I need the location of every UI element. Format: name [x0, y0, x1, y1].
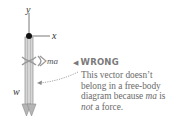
annotation-caption: This vector doesn’t belong in a free-bod…	[81, 70, 173, 112]
ma-label: ma	[47, 56, 58, 66]
wrong-heading: ◀WRONG	[73, 57, 119, 67]
y-axis-label: y	[25, 4, 31, 15]
x-axis-label: x	[51, 30, 57, 41]
weight-vector	[22, 37, 36, 116]
particle-dot	[26, 33, 32, 39]
left-triangle-icon: ◀	[73, 59, 79, 67]
weight-label: w	[13, 86, 20, 97]
annotation-leader-arrow	[37, 72, 78, 85]
